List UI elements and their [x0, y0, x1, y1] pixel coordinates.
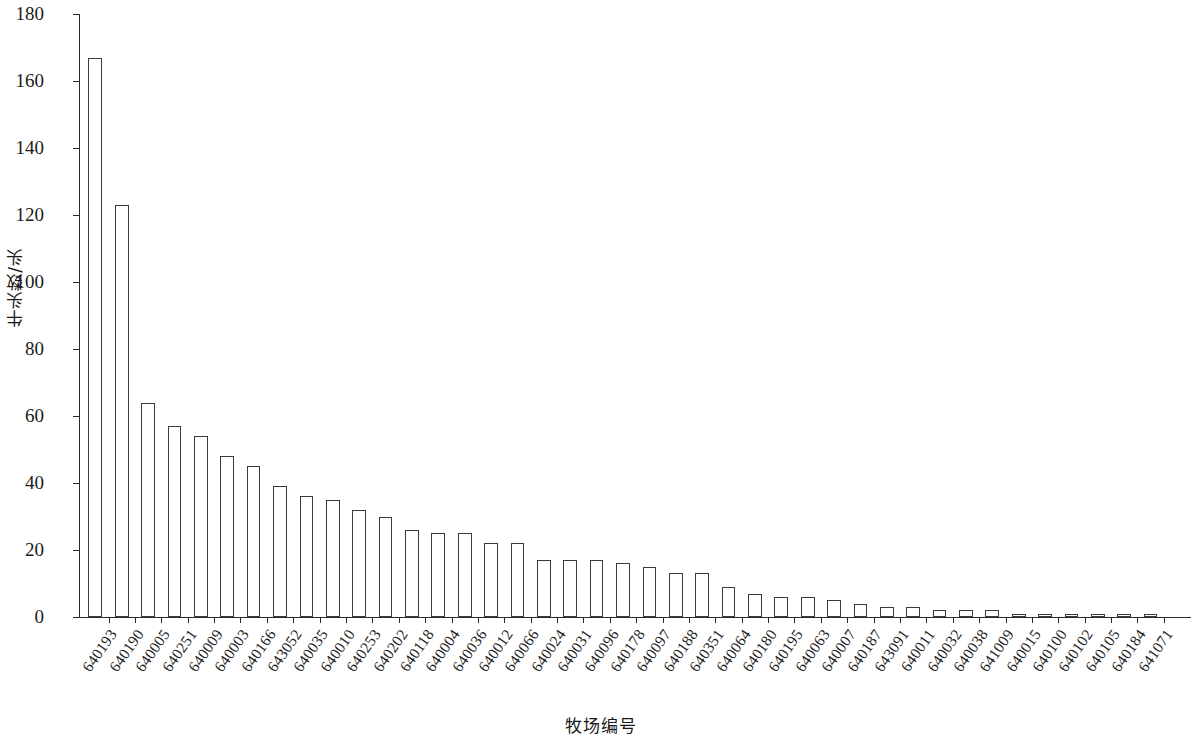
bar [933, 610, 947, 617]
bar-chart: 牛头数/头 020406080100120140160180 640193640… [0, 0, 1202, 746]
bar [854, 604, 868, 617]
bar [563, 560, 577, 617]
y-tick-label: 160 [16, 70, 45, 92]
bar [590, 560, 604, 617]
bar [537, 560, 551, 617]
bar [115, 205, 129, 617]
bar [1038, 614, 1052, 617]
bar [906, 607, 920, 617]
bar [801, 597, 815, 617]
bar [168, 426, 182, 617]
bar [220, 456, 234, 617]
bar [669, 573, 683, 617]
bar [722, 587, 736, 617]
x-axis-ticks: 6401936401906400056402516400096400036401… [79, 620, 1191, 715]
x-axis-line [79, 617, 1191, 618]
y-tick-label: 40 [25, 472, 44, 494]
y-tick-label: 60 [25, 405, 44, 427]
bar [880, 607, 894, 617]
bar [141, 403, 155, 617]
bar [194, 436, 208, 617]
bar [405, 530, 419, 617]
bar [959, 610, 973, 617]
y-tick-label: 0 [35, 606, 45, 628]
bar [511, 543, 525, 617]
plot-area [79, 14, 1191, 617]
y-tick-label: 180 [16, 3, 45, 25]
x-axis-title: 牧场编号 [0, 712, 1202, 737]
bar [379, 517, 393, 618]
bar [616, 563, 630, 617]
bar [88, 58, 102, 617]
bar [431, 533, 445, 617]
bar [1012, 614, 1026, 617]
bar [247, 466, 261, 617]
y-tick-label: 80 [25, 338, 44, 360]
y-tick-label: 20 [25, 539, 44, 561]
bar [484, 543, 498, 617]
y-tick-label: 140 [16, 137, 45, 159]
bar [352, 510, 366, 617]
bar [774, 597, 788, 617]
bar [827, 600, 841, 617]
y-axis-ticks: 020406080100120140160180 [0, 0, 80, 640]
bar [326, 500, 340, 617]
bar [985, 610, 999, 617]
y-tick-label: 100 [16, 271, 45, 293]
bar [1065, 614, 1079, 617]
bar [1091, 614, 1105, 617]
bar [458, 533, 472, 617]
bar [748, 594, 762, 617]
bar [695, 573, 709, 617]
bar [1117, 614, 1131, 617]
bar [643, 567, 657, 617]
bar [1144, 614, 1158, 617]
y-tick-label: 120 [16, 204, 45, 226]
bar [300, 496, 314, 617]
bar [273, 486, 287, 617]
